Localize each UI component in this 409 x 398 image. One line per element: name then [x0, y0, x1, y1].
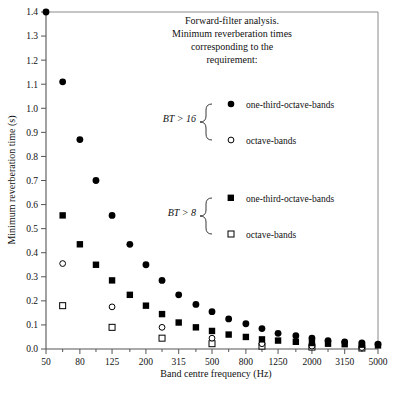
filled-circle-data-point	[159, 277, 166, 284]
annotation-line-4: requirement:	[206, 54, 257, 65]
filled-square-data-point	[243, 334, 249, 340]
legend-label: octave-bands	[246, 136, 296, 146]
filled-square-data-point	[225, 331, 231, 337]
filled-circle-data-point	[143, 261, 150, 268]
x-tick-label: 80	[75, 357, 85, 367]
filled-square-data-point	[293, 339, 299, 345]
series-open-circle-bt-16	[60, 261, 365, 351]
filled-square-data-point	[259, 336, 265, 342]
open-circle-data-point	[159, 324, 165, 330]
filled-square-data-point	[209, 328, 215, 334]
y-tick-label: 0.6	[26, 200, 38, 210]
x-axis-title: Band centre frequency (Hz)	[160, 368, 271, 380]
filled-circle-data-point	[193, 301, 200, 308]
legend-group-bt-gt-8: BT > 8 one-third-octave-bands octave-ban…	[168, 194, 335, 240]
open-circle-data-point	[60, 261, 66, 267]
filled-square-data-point	[175, 319, 181, 325]
x-tick-label: 125	[105, 357, 120, 367]
open-square-data-point	[209, 341, 215, 347]
y-tick-label: 1.4	[26, 7, 38, 17]
filled-square-data-point	[127, 292, 133, 298]
filled-square-data-point	[109, 277, 115, 283]
filled-circle-data-point	[325, 337, 332, 344]
reverberation-time-scatter-chart: 50801252003155008001250200031505000 0.00…	[0, 0, 409, 398]
filled-circle-data-point	[292, 332, 299, 339]
filled-circle-data-point	[259, 325, 266, 332]
filled-circle-data-point	[93, 177, 100, 184]
y-tick-label: 0.8	[26, 152, 38, 162]
x-tick-label: 1250	[269, 357, 288, 367]
x-tick-label: 200	[139, 357, 154, 367]
legend-label: octave-bands	[246, 230, 296, 240]
y-axis-tick-labels: 0.00.10.20.30.40.50.60.70.80.91.01.11.21…	[26, 7, 38, 354]
x-tick-label: 5000	[369, 357, 388, 367]
chart-figure: 50801252003155008001250200031505000 0.00…	[0, 0, 409, 398]
x-tick-label: 800	[239, 357, 254, 367]
y-tick-label: 0.7	[26, 176, 38, 186]
legend-entry-open-circle: octave-bands	[228, 136, 296, 146]
y-tick-label: 0.3	[26, 272, 38, 282]
y-tick-label: 1.1	[26, 80, 38, 90]
filled-circle-data-point	[225, 316, 232, 323]
filled-square-data-point	[77, 241, 83, 247]
legend-label: one-third-octave-bands	[246, 194, 334, 204]
legend-group-bt-gt-16: BT > 16 one-third-octave-bands octave-ba…	[163, 100, 335, 146]
x-axis-tick-labels: 50801252003155008001250200031505000	[41, 357, 388, 367]
chart-annotation: Forward-filter analysis. Minimum reverbe…	[172, 15, 292, 65]
filled-circle-data-point	[341, 338, 348, 345]
y-tick-label: 1.0	[26, 104, 38, 114]
x-axis-ticks	[46, 349, 378, 354]
filled-square-data-point	[59, 212, 65, 218]
legend-entry-open-square: octave-bands	[228, 230, 296, 240]
filled-circle-data-point	[359, 340, 366, 347]
legend-condition-label: BT > 16	[163, 113, 196, 124]
y-tick-label: 0.9	[26, 128, 38, 138]
filled-circle-data-point	[375, 341, 382, 348]
legend-condition-label: BT > 8	[168, 207, 196, 218]
open-circle-marker-icon	[228, 137, 234, 143]
y-tick-label: 0.1	[26, 320, 38, 330]
x-tick-label: 50	[41, 357, 51, 367]
x-tick-label: 500	[205, 357, 220, 367]
legend-brace-icon	[200, 104, 212, 140]
y-tick-label: 1.2	[26, 56, 38, 66]
y-tick-label: 0.5	[26, 224, 38, 234]
y-tick-label: 0.4	[26, 248, 38, 258]
filled-square-data-point	[143, 302, 149, 308]
filled-circle-data-point	[275, 330, 282, 337]
open-square-data-point	[109, 324, 115, 330]
filled-circle-data-point	[175, 291, 182, 298]
open-circle-data-point	[109, 304, 115, 310]
y-tick-label: 0.2	[26, 296, 38, 306]
open-square-data-point	[60, 303, 66, 309]
filled-circle-data-point	[76, 136, 83, 143]
y-axis-title: Minimum reverberation time (s)	[6, 115, 18, 244]
x-tick-label: 3150	[335, 357, 354, 367]
filled-square-data-point	[193, 324, 199, 330]
y-tick-label: 1.3	[26, 31, 38, 41]
y-axis-ticks	[41, 12, 46, 349]
filled-circle-data-point	[242, 320, 249, 327]
filled-circle-data-point	[43, 9, 50, 16]
legend-entry-filled-square: one-third-octave-bands	[228, 194, 335, 204]
filled-square-data-point	[93, 262, 99, 268]
legend-brace-icon	[200, 198, 212, 234]
filled-circle-data-point	[309, 335, 316, 342]
open-square-marker-icon	[228, 231, 234, 237]
legend-entry-filled-circle: one-third-octave-bands	[228, 100, 335, 110]
annotation-line-1: Forward-filter analysis.	[185, 15, 279, 26]
filled-circle-data-point	[209, 308, 216, 315]
filled-square-marker-icon	[228, 195, 234, 201]
filled-circle-data-point	[109, 212, 116, 219]
filled-circle-data-point	[59, 78, 66, 85]
annotation-line-3: corresponding to the	[191, 41, 274, 52]
series-filled-square-bt-8	[59, 212, 381, 348]
filled-circle-data-point	[126, 241, 133, 248]
annotation-line-2: Minimum reverberation times	[172, 28, 292, 39]
filled-circle-marker-icon	[228, 101, 235, 108]
y-tick-label: 0.0	[26, 344, 38, 354]
open-circle-data-point	[209, 335, 215, 341]
x-tick-label: 315	[172, 357, 187, 367]
filled-square-data-point	[275, 337, 281, 343]
x-tick-label: 2000	[302, 357, 321, 367]
